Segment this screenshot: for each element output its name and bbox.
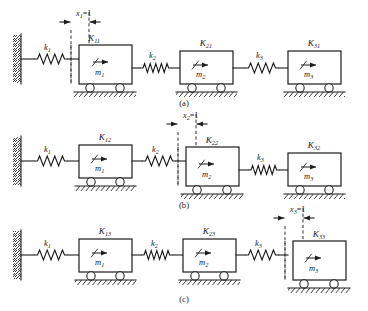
figure-canvas: k1 x1=1 m1 K11 k2 <box>0 0 368 311</box>
panel-a: k1 x1=1 m1 K11 k2 <box>13 9 345 108</box>
spring-k2-c: k2 <box>132 238 183 259</box>
spring-k1-a-label: k1 <box>44 42 51 53</box>
mass-m1-a: m1 K11 <box>71 33 136 97</box>
spring-k3-b: k3 <box>239 152 288 174</box>
spring-k3-c: k3 <box>236 238 288 260</box>
spring-k3-c-label: k3 <box>255 238 262 249</box>
force-K33-label: K33 <box>312 229 325 240</box>
panel-a-caption: (a) <box>179 98 189 108</box>
force-K22-label: K22 <box>205 135 218 146</box>
spring-k1-c: k1 <box>34 238 79 260</box>
force-K12-label: K12 <box>98 132 111 143</box>
spring-k2-a: k2 <box>132 50 180 72</box>
spring-k3-b-label: k3 <box>257 152 264 163</box>
displacement-x2-b-label: x2=1 <box>182 111 198 121</box>
force-K13-label: K13 <box>98 226 111 237</box>
mass-m2-b: m2 K22 <box>178 135 243 199</box>
mass-m2-a: m2 K21 <box>176 38 237 97</box>
panel-b: k1 m1 K12 k2 x2=1 <box>13 111 345 210</box>
spring-k3-a: k3 <box>233 50 288 73</box>
wall-c <box>13 230 34 280</box>
spring-k3-a-label: k3 <box>256 50 263 61</box>
spring-k2-a-label: k2 <box>149 50 156 61</box>
wall-a <box>13 34 34 84</box>
spring-k2-c-label: k2 <box>151 238 158 249</box>
displacement-x1-a-label: x1=1 <box>75 9 91 19</box>
displacement-x3-c-label: x3=1 <box>289 205 305 215</box>
force-K11-label: K11 <box>87 33 100 44</box>
spring-k1-b: k1 <box>34 144 79 166</box>
force-K21-label: K21 <box>199 38 212 49</box>
mass-spring-diagram: k1 x1=1 m1 K11 k2 <box>0 0 368 311</box>
mass-m3-c: m3 K33 <box>285 229 350 293</box>
mass-m3-a: m3 K31 <box>284 38 345 97</box>
mass-m1-b: m1 K12 <box>75 132 136 191</box>
spring-k2-b-label: k2 <box>152 144 159 155</box>
spring-k1-b-label: k1 <box>44 144 51 155</box>
mass-m2-c: m2 K23 <box>179 226 240 285</box>
panel-b-caption: (b) <box>179 200 189 210</box>
force-K31-label: K31 <box>307 38 320 49</box>
wall-b <box>13 136 34 186</box>
force-K23-label: K23 <box>202 226 215 237</box>
spring-k1-a: k1 <box>34 42 79 64</box>
mass-m3-b: m3 K32 <box>284 140 345 199</box>
panel-c-caption: (c) <box>179 294 189 304</box>
mass-m1-c: m1 K13 <box>75 226 136 285</box>
panel-c: k1 m1 K13 k2 m2 K23 <box>13 205 350 304</box>
force-K32-label: K32 <box>307 140 320 151</box>
spring-k1-c-label: k1 <box>44 238 51 249</box>
